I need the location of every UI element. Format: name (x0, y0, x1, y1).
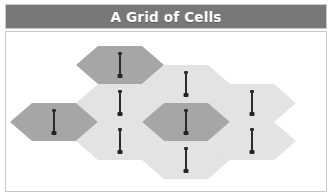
hexagon-shape-light (142, 141, 230, 179)
screenshot-root: A Grid of Cells (0, 0, 332, 196)
hexagon-grid (6, 32, 326, 191)
diagram-frame (5, 31, 327, 192)
title-bar: A Grid of Cells (5, 4, 327, 29)
hexagon-cell[interactable] (142, 141, 230, 179)
page-title: A Grid of Cells (110, 9, 221, 25)
